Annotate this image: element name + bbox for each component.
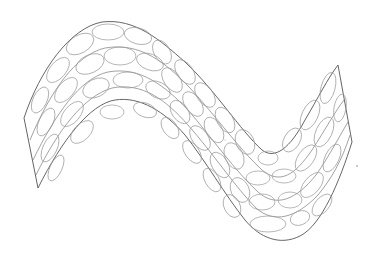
drawing-canvas: [0, 0, 372, 255]
rib-line: [33, 71, 348, 200]
sheet-outline-left-edge: [24, 118, 38, 188]
speck: [224, 139, 225, 140]
wave-sheet-illustration: [0, 0, 372, 255]
sheet-outline-right-edge: [338, 65, 352, 142]
speck: [356, 165, 358, 167]
